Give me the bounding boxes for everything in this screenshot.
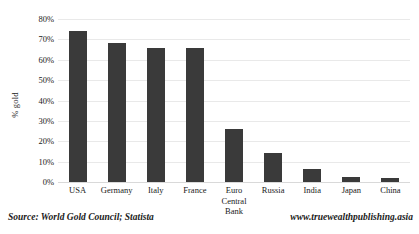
- x-axis-tick-label-line: Russia: [254, 185, 293, 196]
- bars-group: [58, 19, 410, 182]
- x-axis-tick-label-line: Germany: [97, 185, 136, 196]
- y-axis-tick-label: 80%: [10, 14, 54, 24]
- y-axis-tick-labels: 80%70%60%50%40%30%20%10%0%: [8, 19, 54, 182]
- x-axis-tick-label: France: [175, 185, 214, 196]
- x-axis-tick-label: EuroCentralBank: [214, 185, 253, 217]
- x-axis-tick-label: USA: [58, 185, 97, 196]
- x-axis-tick-label: China: [371, 185, 410, 196]
- x-axis-tick-labels: USAGermanyItalyFranceEuroCentralBankRuss…: [58, 185, 410, 230]
- x-axis-tick-label: Japan: [332, 185, 371, 196]
- y-axis-tick-label: 30%: [10, 116, 54, 126]
- y-axis-tick-label: 70%: [10, 34, 54, 44]
- bar: [381, 178, 399, 182]
- x-axis-tick-label-line: Central: [214, 196, 253, 207]
- bar: [186, 48, 204, 182]
- plot-area: [58, 19, 410, 182]
- x-axis-tick-label-line: France: [175, 185, 214, 196]
- bar: [69, 31, 87, 182]
- y-axis-tick-label: 60%: [10, 55, 54, 65]
- x-axis-tick-label: Russia: [254, 185, 293, 196]
- bar: [225, 129, 243, 182]
- x-axis-tick-label-line: Bank: [214, 206, 253, 217]
- x-axis-tick-label-line: Japan: [332, 185, 371, 196]
- y-axis-tick-label: 40%: [10, 96, 54, 106]
- x-axis-tick-label: India: [293, 185, 332, 196]
- y-axis-tick-label: 50%: [10, 75, 54, 85]
- x-axis-tick-label-line: China: [371, 185, 410, 196]
- bar: [342, 177, 360, 182]
- bar: [303, 169, 321, 182]
- footer-source-text: Source: World Gold Council; Statista: [8, 212, 154, 222]
- y-axis-tick-label: 0%: [10, 177, 54, 187]
- bar: [147, 48, 165, 182]
- bar: [108, 43, 126, 182]
- x-axis-tick-label: Italy: [136, 185, 175, 196]
- gridline: [58, 182, 410, 183]
- x-axis-tick-label-line: India: [293, 185, 332, 196]
- y-axis-tick-label: 20%: [10, 136, 54, 146]
- y-axis-tick-label: 10%: [10, 157, 54, 167]
- gold-reserves-bar-chart: % gold 80%70%60%50%40%30%20%10%0% USAGer…: [0, 0, 419, 234]
- x-axis-tick-label-line: Euro: [214, 185, 253, 196]
- x-axis-tick-label: Germany: [97, 185, 136, 196]
- footer-website-text: www.truewealthpublishing.asia: [290, 212, 413, 222]
- bar: [264, 153, 282, 182]
- x-axis-tick-label-line: USA: [58, 185, 97, 196]
- x-axis-tick-label-line: Italy: [136, 185, 175, 196]
